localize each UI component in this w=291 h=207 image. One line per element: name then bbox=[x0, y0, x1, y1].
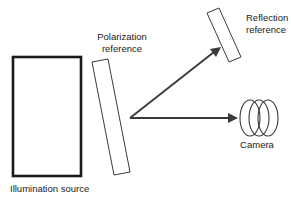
illumination-source-label: Illumination source bbox=[10, 183, 89, 194]
polarization-reference-label-line1: Polarization bbox=[97, 31, 147, 42]
reflected-beam-arrowhead bbox=[210, 47, 221, 57]
illumination-source-rect bbox=[13, 57, 81, 176]
reflection-reference-label-line2: reference bbox=[246, 24, 286, 35]
polarization-reference-slab bbox=[92, 59, 130, 175]
transmitted-beam-arrowhead bbox=[228, 113, 238, 123]
reflection-reference-label-line1: Reflection bbox=[246, 12, 288, 23]
camera-lens-ellipse-1 bbox=[240, 100, 260, 136]
camera-lens-ellipse-3 bbox=[258, 100, 278, 136]
diagram-canvas: Illumination source Polarization referen… bbox=[0, 0, 291, 207]
camera-label: Camera bbox=[240, 139, 275, 150]
camera-lens-ellipse-2 bbox=[249, 100, 269, 136]
reflected-beam-line bbox=[130, 52, 214, 118]
polarization-reference-label-line2: reference bbox=[102, 43, 142, 54]
optical-setup-diagram: Illumination source Polarization referen… bbox=[0, 0, 291, 207]
